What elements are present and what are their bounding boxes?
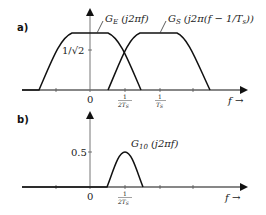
x-tick-half-a: 1 2TS: [117, 93, 132, 109]
x-tick-one-a: 1 TS: [155, 93, 166, 109]
label-g-10: G10(j2πf): [131, 138, 179, 151]
label-g-s: GS(j2π(f − 1/Ts)): [168, 13, 254, 26]
diagram: a) GE(j2πf) GS(j2π(f − 1/Ts)) 1/√2 0: [0, 0, 266, 215]
panel-a-label: a): [17, 22, 28, 33]
x-axis-label-b: f →: [224, 192, 241, 203]
label-g-e: GE(j2πf): [105, 13, 149, 26]
panel-b-label: b): [17, 114, 29, 125]
panel-a: a) GE(j2πf) GS(j2π(f − 1/Ts)) 1/√2 0: [17, 10, 254, 109]
curve-g-s: [108, 33, 210, 90]
svg-text:TS: TS: [156, 101, 163, 109]
x-axis-label-a: f →: [227, 95, 244, 106]
leader-g-s: [160, 21, 166, 33]
x-tick-zero-a: 0: [87, 94, 93, 105]
leader-g-e: [97, 21, 103, 33]
y-tick-label-b: 0.5: [71, 147, 87, 158]
curve-g-e: [22, 33, 141, 90]
svg-text:1: 1: [123, 190, 127, 197]
svg-text:1: 1: [158, 93, 162, 100]
svg-text:2TS: 2TS: [117, 198, 129, 206]
panel-b: b) G10(j2πf) 0.5 0 1 2TS f →: [17, 113, 246, 206]
svg-text:1: 1: [123, 93, 127, 100]
svg-text:2TS: 2TS: [117, 101, 129, 109]
x-tick-zero-b: 0: [87, 191, 93, 202]
y-tick-label-a: 1/√2: [62, 45, 84, 56]
x-tick-half-b: 1 2TS: [117, 190, 132, 206]
